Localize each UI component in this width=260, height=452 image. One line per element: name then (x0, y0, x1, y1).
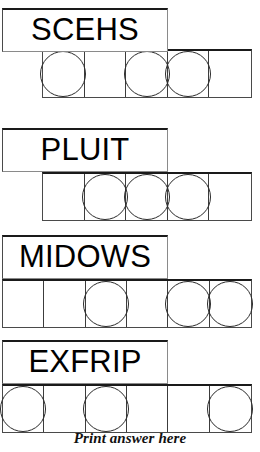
circle-marker-icon (165, 174, 211, 220)
puzzle-row-4: EXFRIP (0, 332, 260, 432)
puzzle-row-3: MIDOWS (0, 227, 260, 332)
word-scramble-worksheet: SCEHS PLUIT (0, 0, 260, 452)
circle-marker-icon (82, 174, 128, 220)
answer-cells-4 (2, 384, 252, 433)
scrambled-word-box-1: SCEHS (2, 8, 168, 52)
answer-cell[interactable] (168, 281, 209, 327)
circle-marker-icon (124, 51, 170, 97)
print-answer-here-caption: Print answer here (0, 430, 260, 447)
scrambled-word-label: MIDOWS (19, 241, 151, 272)
answer-cell[interactable] (126, 51, 168, 97)
answer-cell[interactable] (210, 386, 251, 432)
scrambled-word-label: PLUIT (41, 134, 130, 165)
circle-marker-icon (0, 386, 46, 432)
answer-cell[interactable] (168, 386, 209, 432)
circle-marker-icon (83, 281, 129, 327)
circle-marker-icon (207, 386, 253, 432)
answer-cells-3 (2, 279, 252, 328)
answer-cell[interactable] (86, 281, 127, 327)
puzzle-row-2: PLUIT (0, 120, 260, 225)
answer-cell[interactable] (210, 281, 251, 327)
answer-cell[interactable] (43, 174, 85, 220)
scrambled-word-box-2: PLUIT (2, 128, 168, 172)
answer-cell[interactable] (86, 386, 127, 432)
scrambled-word-box-4: EXFRIP (2, 340, 168, 384)
answer-cell[interactable] (168, 51, 210, 97)
puzzle-row-1: SCEHS (0, 0, 260, 110)
answer-cell[interactable] (126, 174, 168, 220)
answer-cell[interactable] (168, 174, 210, 220)
answer-cell[interactable] (209, 174, 251, 220)
scrambled-word-label: EXFRIP (28, 346, 141, 377)
circle-marker-icon (124, 174, 170, 220)
scrambled-word-box-3: MIDOWS (2, 235, 168, 279)
answer-cell[interactable] (43, 51, 85, 97)
answer-cells-1 (42, 49, 252, 98)
answer-cell[interactable] (3, 386, 44, 432)
answer-cell[interactable] (85, 174, 127, 220)
circle-marker-icon (83, 386, 129, 432)
answer-cell[interactable] (127, 386, 168, 432)
answer-cell[interactable] (85, 51, 127, 97)
circle-marker-icon (40, 51, 86, 97)
answer-cells-2 (42, 172, 252, 221)
answer-cell[interactable] (44, 281, 85, 327)
answer-cell[interactable] (3, 281, 44, 327)
circle-marker-icon (207, 281, 253, 327)
answer-cell[interactable] (127, 281, 168, 327)
answer-cell[interactable] (44, 386, 85, 432)
circle-marker-icon (165, 281, 211, 327)
circle-marker-icon (165, 51, 211, 97)
answer-cell[interactable] (209, 51, 251, 97)
scrambled-word-label: SCEHS (31, 14, 139, 45)
